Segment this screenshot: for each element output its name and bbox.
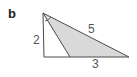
label-left-side: 2: [33, 33, 40, 47]
label-hypotenuse: 5: [88, 22, 95, 36]
label-base-segment: 3: [92, 57, 99, 71]
triangle-diagram: 2 5 3: [0, 0, 137, 77]
